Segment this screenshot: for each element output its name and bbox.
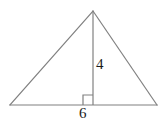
right-angle-icon xyxy=(83,95,93,105)
geometry-figure: 4 6 xyxy=(0,0,165,123)
triangle-left-side xyxy=(10,11,93,105)
base-measure-label: 6 xyxy=(79,106,87,121)
height-measure-label: 4 xyxy=(96,57,104,72)
